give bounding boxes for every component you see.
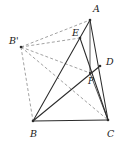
vertex-dot-A bbox=[89, 19, 92, 22]
vertex-dot-E bbox=[79, 37, 82, 40]
vertex-label-B: B bbox=[29, 128, 37, 139]
solid-segments-group bbox=[33, 20, 108, 121]
vertex-label-P: P bbox=[87, 76, 94, 86]
segment-Bp-A bbox=[21, 20, 90, 47]
vertex-dot-D bbox=[99, 65, 102, 68]
segment-B-D bbox=[33, 66, 100, 121]
geometry-canvas: AB'EDPBC bbox=[0, 0, 123, 147]
segment-Bp-C bbox=[21, 47, 108, 120]
vertex-dot-P bbox=[89, 72, 91, 74]
vertex-dots-group bbox=[20, 19, 110, 123]
segment-Bp-P bbox=[21, 47, 90, 73]
vertex-dot-Bp bbox=[20, 46, 23, 49]
segment-Bp-B bbox=[21, 47, 33, 121]
vertex-label-D: D bbox=[105, 56, 114, 67]
vertex-dot-B bbox=[32, 120, 35, 123]
segment-A-B bbox=[33, 20, 90, 121]
vertex-dot-C bbox=[107, 119, 110, 122]
vertex-label-E: E bbox=[71, 27, 79, 38]
segment-B-C bbox=[33, 120, 108, 121]
vertex-label-Bp: B' bbox=[8, 35, 19, 46]
vertex-label-A: A bbox=[92, 3, 100, 14]
segment-A-C bbox=[90, 20, 108, 120]
segment-Bp-E bbox=[21, 38, 80, 47]
vertex-label-C: C bbox=[107, 128, 115, 139]
geometry-figure: AB'EDPBC bbox=[0, 0, 123, 147]
